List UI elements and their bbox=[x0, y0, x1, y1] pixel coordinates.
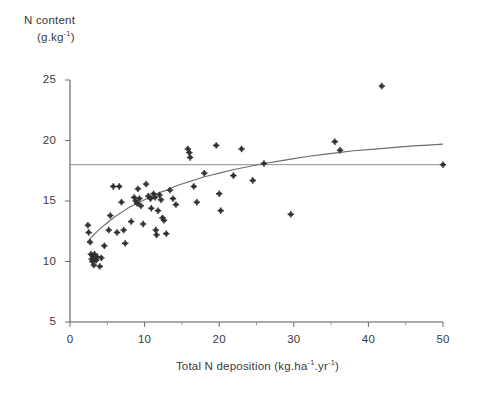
data-point-marker bbox=[116, 183, 122, 189]
data-point-marker bbox=[148, 205, 154, 211]
data-point-marker bbox=[135, 186, 141, 192]
axis-spines bbox=[70, 80, 443, 322]
data-point-marker bbox=[187, 154, 193, 160]
data-point-marker bbox=[122, 240, 128, 246]
data-point-marker bbox=[158, 197, 164, 203]
data-point-marker bbox=[110, 183, 116, 189]
data-point-marker bbox=[118, 199, 124, 205]
data-point-marker bbox=[440, 162, 446, 168]
data-point-marker bbox=[153, 227, 159, 233]
data-point-marker bbox=[97, 263, 103, 269]
data-point-marker bbox=[155, 207, 161, 213]
data-point-marker bbox=[194, 199, 200, 205]
data-point-marker bbox=[114, 229, 120, 235]
fitted-curve bbox=[87, 144, 443, 242]
data-point-marker bbox=[213, 142, 219, 148]
data-points bbox=[85, 83, 446, 270]
data-point-marker bbox=[332, 139, 338, 145]
data-point-marker bbox=[288, 211, 294, 217]
data-point-marker bbox=[230, 172, 236, 178]
data-point-marker bbox=[107, 212, 113, 218]
data-point-marker bbox=[216, 191, 222, 197]
data-point-marker bbox=[191, 183, 197, 189]
data-point-marker bbox=[217, 207, 223, 213]
data-point-marker bbox=[173, 201, 179, 207]
data-point-marker bbox=[106, 227, 112, 233]
data-point-marker bbox=[101, 243, 107, 249]
data-point-marker bbox=[87, 239, 93, 245]
data-point-marker bbox=[379, 83, 385, 89]
data-point-marker bbox=[250, 177, 256, 183]
data-point-marker bbox=[261, 160, 267, 166]
data-point-marker bbox=[143, 181, 149, 187]
plot-area bbox=[0, 0, 481, 393]
data-point-marker bbox=[201, 170, 207, 176]
data-point-marker bbox=[121, 227, 127, 233]
data-point-marker bbox=[85, 229, 91, 235]
data-point-marker bbox=[85, 222, 91, 228]
fit-curve-path bbox=[87, 144, 443, 242]
data-point-marker bbox=[163, 230, 169, 236]
data-point-marker bbox=[153, 232, 159, 238]
data-point-marker bbox=[170, 195, 176, 201]
data-point-marker bbox=[238, 146, 244, 152]
data-point-marker bbox=[140, 221, 146, 227]
data-point-marker bbox=[128, 218, 134, 224]
figure-root: N content (g.kg-1) Total N deposition (k… bbox=[0, 0, 481, 393]
